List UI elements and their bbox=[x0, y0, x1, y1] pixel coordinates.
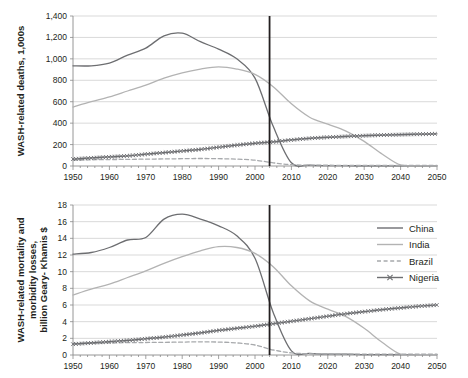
series-line-brazil bbox=[73, 159, 437, 166]
legend-item-nigeria[interactable]: Nigeria bbox=[377, 272, 440, 283]
y-tick-label: 600 bbox=[53, 97, 67, 107]
x-tick-label: 1970 bbox=[136, 361, 155, 371]
series-markers-nigeria bbox=[71, 303, 439, 346]
x-tick-label: 1960 bbox=[100, 172, 119, 182]
y-tick-label: 0 bbox=[62, 161, 67, 171]
series-group bbox=[71, 33, 437, 166]
y-tick-label: 10 bbox=[58, 267, 68, 277]
gridlines bbox=[73, 205, 437, 338]
chart-panel-losses: 0246810121416181950196019701980199020002… bbox=[15, 200, 447, 371]
x-tick-label: 1950 bbox=[64, 361, 83, 371]
x-tick-label: 2010 bbox=[282, 361, 301, 371]
x-tick-label: 2020 bbox=[318, 172, 337, 182]
x-tick-label: 1990 bbox=[209, 172, 228, 182]
chart-panel-deaths: 02004006008001,0001,2001,400195019601970… bbox=[15, 11, 447, 182]
x-tick-label: 1980 bbox=[173, 172, 192, 182]
legend: ChinaIndiaBrazilNigeria bbox=[377, 223, 440, 284]
y-tick-label: 4 bbox=[62, 317, 67, 327]
legend-label-nigeria: Nigeria bbox=[409, 272, 440, 283]
legend-label-china: China bbox=[409, 223, 435, 234]
figure-container: 02004006008001,0001,2001,400195019601970… bbox=[0, 0, 468, 378]
gridlines bbox=[73, 16, 437, 145]
y-tick-label: 1,200 bbox=[46, 32, 68, 42]
x-tick-label: 2000 bbox=[246, 361, 265, 371]
y-tick-label: 16 bbox=[58, 217, 68, 227]
y-tick-label: 6 bbox=[62, 300, 67, 310]
y-tick-label: 12 bbox=[58, 250, 68, 260]
x-tick-label: 2050 bbox=[428, 361, 447, 371]
y-axis: 02004006008001,0001,2001,400 bbox=[46, 11, 73, 171]
chart-figure: 02004006008001,0001,2001,400195019601970… bbox=[0, 0, 468, 378]
x-tick-label: 2050 bbox=[428, 172, 447, 182]
legend-item-china[interactable]: China bbox=[377, 223, 435, 234]
x-tick-label: 1980 bbox=[173, 361, 192, 371]
x-tick-label: 2040 bbox=[391, 172, 410, 182]
y-axis-title-line: WASH-related mortality and bbox=[15, 217, 26, 342]
x-axis: 1950196019701980199020002010202020302040… bbox=[64, 166, 447, 182]
y-tick-label: 1,400 bbox=[46, 11, 68, 21]
y-axis: 024681012141618 bbox=[58, 200, 73, 360]
x-tick-label: 2030 bbox=[355, 361, 374, 371]
series-line-india bbox=[73, 246, 437, 355]
series-line-india bbox=[73, 67, 437, 166]
x-axis: 1950196019701980199020002010202020302040… bbox=[64, 355, 447, 371]
y-axis-title: WASH-related mortality andmorbidity loss… bbox=[15, 217, 49, 342]
legend-item-india[interactable]: India bbox=[377, 239, 430, 250]
series-markers-nigeria bbox=[71, 132, 437, 161]
y-tick-label: 0 bbox=[62, 350, 67, 360]
y-axis-title-line: WASH-related deaths, 1,000s bbox=[15, 26, 26, 156]
x-tick-label: 2000 bbox=[246, 172, 265, 182]
series-group bbox=[71, 214, 439, 355]
y-axis-title-line: billion Geary- Khamis $ bbox=[38, 226, 49, 332]
series-line-brazil bbox=[73, 342, 437, 354]
x-tick-label: 2030 bbox=[355, 172, 374, 182]
x-tick-label: 1950 bbox=[64, 172, 83, 182]
y-tick-label: 18 bbox=[58, 200, 68, 210]
x-tick-label: 1960 bbox=[100, 361, 119, 371]
y-tick-label: 400 bbox=[53, 118, 67, 128]
x-tick-label: 1990 bbox=[209, 361, 228, 371]
y-tick-label: 2 bbox=[62, 333, 67, 343]
y-tick-label: 800 bbox=[53, 75, 67, 85]
legend-label-india: India bbox=[409, 239, 430, 250]
legend-label-brazil: Brazil bbox=[409, 256, 433, 267]
x-tick-label: 2010 bbox=[282, 172, 301, 182]
legend-item-brazil[interactable]: Brazil bbox=[377, 256, 433, 267]
x-tick-label: 2020 bbox=[318, 361, 337, 371]
y-tick-label: 1,000 bbox=[46, 54, 68, 64]
y-tick-label: 8 bbox=[62, 283, 67, 293]
x-tick-label: 2040 bbox=[391, 361, 410, 371]
y-tick-label: 200 bbox=[53, 140, 67, 150]
series-line-china bbox=[73, 214, 437, 354]
y-axis-title-line: morbidity losses, bbox=[27, 241, 38, 319]
y-axis-title: WASH-related deaths, 1,000s bbox=[15, 26, 26, 156]
x-tick-label: 1970 bbox=[136, 172, 155, 182]
series-line-china bbox=[73, 33, 437, 166]
y-tick-label: 14 bbox=[58, 233, 68, 243]
